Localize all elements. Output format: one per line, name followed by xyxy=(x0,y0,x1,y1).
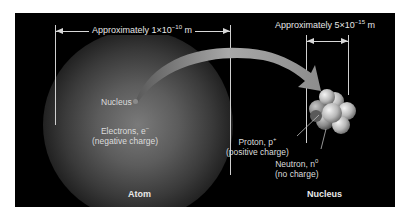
nucleus-caption: Nucleus xyxy=(307,189,342,199)
neutron-name: Neutron, n xyxy=(275,159,315,169)
neutron-charge: (no charge) xyxy=(275,169,318,179)
neutron-charge-sign: 0 xyxy=(315,158,318,164)
nucleus-point-label: Nucleus xyxy=(101,97,132,107)
proton-label: Proton, p+ (positive charge) xyxy=(226,134,289,157)
electrons-charge-sign: − xyxy=(146,125,150,131)
neutron-leader-line xyxy=(321,129,326,149)
curved-arrow-icon xyxy=(136,48,321,102)
nucleus-cluster-icon xyxy=(309,89,356,134)
electrons-label: Electrons, e− (negative charge) xyxy=(92,123,158,146)
atom-caption: Atom xyxy=(128,189,151,199)
proton-leader-line xyxy=(297,115,319,136)
neutron-label: Neutron, n0 (no charge) xyxy=(275,156,318,179)
atom-diagram-panel: Approximately 1×10−10 m Approximately 5×… xyxy=(15,13,395,207)
zoom-arrow-and-nucleus-graphic xyxy=(15,13,395,207)
electrons-charge: (negative charge) xyxy=(92,136,158,146)
proton-name: Proton, p xyxy=(238,137,273,147)
nucleus-point-dot xyxy=(133,99,138,104)
proton-charge-sign: + xyxy=(273,136,277,142)
electrons-name: Electrons, e xyxy=(101,126,146,136)
